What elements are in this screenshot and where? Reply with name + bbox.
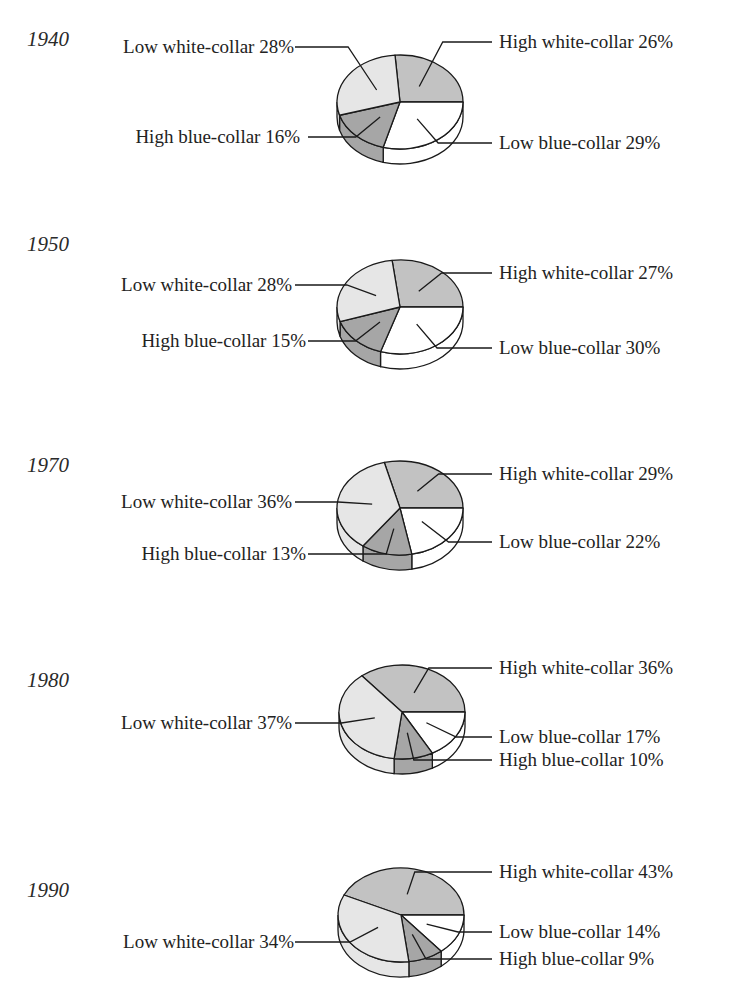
label-low-white-collar-1950: Low white-collar 28% bbox=[121, 274, 292, 296]
label-low-blue-collar-1940: Low blue-collar 29% bbox=[499, 132, 660, 154]
label-low-blue-collar-1990: Low blue-collar 14% bbox=[499, 921, 660, 943]
year-label-1970: 1970 bbox=[27, 453, 69, 478]
pie-chart-stack: 1940 High white-collar 26% Low blue-coll… bbox=[0, 0, 748, 1004]
label-high-white-collar-1940: High white-collar 26% bbox=[499, 31, 673, 53]
year-label-1980: 1980 bbox=[27, 668, 69, 693]
label-low-blue-collar-1950: Low blue-collar 30% bbox=[499, 337, 660, 359]
label-low-white-collar-1990: Low white-collar 34% bbox=[123, 931, 294, 953]
label-high-white-collar-1990: High white-collar 43% bbox=[499, 861, 673, 883]
label-high-white-collar-1980: High white-collar 36% bbox=[499, 657, 673, 679]
label-low-blue-collar-1970: Low blue-collar 22% bbox=[499, 531, 660, 553]
pie-slice-high-white-collar bbox=[395, 55, 463, 102]
label-low-white-collar-1970: Low white-collar 36% bbox=[121, 491, 292, 513]
label-high-blue-collar-1950: High blue-collar 15% bbox=[141, 330, 306, 352]
label-high-white-collar-1970: High white-collar 29% bbox=[499, 463, 673, 485]
label-low-white-collar-1980: Low white-collar 37% bbox=[121, 712, 292, 734]
year-label-1940: 1940 bbox=[27, 27, 69, 52]
label-high-white-collar-1950: High white-collar 27% bbox=[499, 262, 673, 284]
label-high-blue-collar-1970: High blue-collar 13% bbox=[141, 543, 306, 565]
label-high-blue-collar-1990: High blue-collar 9% bbox=[499, 948, 654, 970]
label-low-blue-collar-1980: Low blue-collar 17% bbox=[499, 726, 660, 748]
year-label-1950: 1950 bbox=[27, 232, 69, 257]
year-label-1990: 1990 bbox=[27, 878, 69, 903]
label-high-blue-collar-1940: High blue-collar 16% bbox=[135, 126, 300, 148]
label-low-white-collar-1940: Low white-collar 28% bbox=[123, 36, 294, 58]
label-high-blue-collar-1980: High blue-collar 10% bbox=[499, 749, 664, 771]
